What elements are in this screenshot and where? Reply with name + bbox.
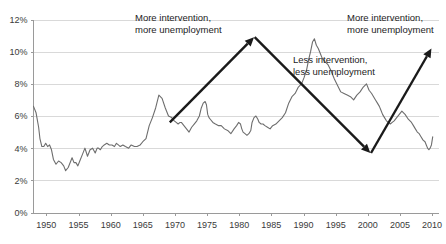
y-tick-label: 2%: [14, 176, 27, 186]
x-tick-label: 1955: [68, 220, 88, 230]
x-tick-label: 1965: [133, 220, 153, 230]
x-tick-label: 1995: [326, 220, 346, 230]
x-tick-label: 2010: [422, 220, 442, 230]
y-tick-label: 12%: [9, 15, 27, 25]
unemployment-chart: 0%2%4%6%8%10%12% 19501955196019651970197…: [0, 0, 446, 244]
arrow-rising-1969-1982: [170, 44, 248, 123]
y-tick-label: 0%: [14, 208, 27, 218]
x-tick-label: 1985: [261, 220, 281, 230]
ann-more-intervention-2: More intervention,more unemployment: [347, 12, 434, 35]
gridlines: [34, 21, 439, 181]
x-tick-label: 2000: [358, 220, 378, 230]
y-tick-label: 4%: [14, 144, 27, 154]
y-tick-label: 6%: [14, 111, 27, 121]
chart-canvas: 0%2%4%6%8%10%12% 19501955196019651970197…: [0, 0, 446, 244]
x-tick-label: 1975: [197, 220, 217, 230]
x-tick-label: 1950: [36, 220, 56, 230]
y-tick-label: 8%: [14, 79, 27, 89]
ann-less-intervention: Less intervention,less unemployment: [293, 54, 375, 77]
x-tick-label: 2005: [390, 220, 410, 230]
x-tick-label: 1980: [229, 220, 249, 230]
x-tick-label: 1990: [293, 220, 313, 230]
arrow-rising-2000-2010: [371, 56, 427, 153]
axis-lines: [31, 20, 439, 216]
y-tick-label: 10%: [9, 47, 27, 57]
x-tick-label: 1970: [165, 220, 185, 230]
x-tick-label: 1960: [101, 220, 121, 230]
ann-more-intervention-1: More intervention,more unemployment: [135, 12, 222, 35]
y-axis-tick-labels: 0%2%4%6%8%10%12%: [9, 15, 27, 218]
x-axis-tick-labels: 1950195519601965197019751980198519901995…: [36, 220, 442, 230]
